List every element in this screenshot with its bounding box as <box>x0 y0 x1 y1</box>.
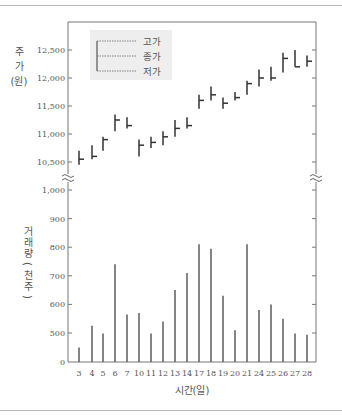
x-tick-label: 13 <box>170 369 180 378</box>
volume-tick-label: 500 <box>50 329 65 338</box>
axis-break-left <box>62 175 74 182</box>
x-tick-label: 26 <box>278 369 288 378</box>
volume-tick-label: 700 <box>50 272 65 281</box>
x-tick-label: 4 <box>89 369 94 378</box>
volume-tick-label: 600 <box>50 300 65 309</box>
volume-axis-title-char: 거 <box>24 226 33 237</box>
volume-tick-label: 800 <box>50 243 65 252</box>
x-tick-label: 18 <box>206 369 216 378</box>
x-tick-label: 3 <box>76 369 81 378</box>
price-tick-label: 11,000 <box>37 130 65 139</box>
price-tick-label: 11,500 <box>37 102 65 111</box>
volume-tick-label: 1,000 <box>42 186 65 195</box>
price-tick-label: 12,500 <box>37 46 65 55</box>
x-axis-title: 시간(일) <box>175 385 210 396</box>
x-tick-label: 14 <box>182 369 192 378</box>
x-tick-label: 11 <box>146 369 156 378</box>
legend-item-close: 종가 <box>143 51 161 62</box>
x-tick-label: 27 <box>290 369 300 378</box>
x-tick-label: 25 <box>266 369 276 378</box>
volume-axis-title-char: 래 <box>24 237 33 248</box>
volume-axis-title-char: ) <box>22 295 33 299</box>
x-tick-label: 19 <box>218 369 228 378</box>
price-axis-title-1: 주 <box>15 46 24 57</box>
x-tick-label: 6 <box>112 369 117 378</box>
volume-tick-label: 0 <box>60 358 65 367</box>
x-tick-label: 17 <box>194 369 204 378</box>
x-tick-label: 10 <box>134 369 144 378</box>
legend-item-high: 고가 <box>143 36 161 47</box>
x-tick-label: 5 <box>100 369 105 378</box>
volume-axis-title-char: 주 <box>24 281 33 292</box>
x-tick-label: 12 <box>158 369 168 378</box>
volume-axis-title-char: ( <box>22 262 33 266</box>
stock-price-volume-chart: 12,50012,00011,50011,00010,5001,00090080… <box>0 0 342 417</box>
price-tick-label: 12,000 <box>37 74 65 83</box>
price-tick-label: 10,500 <box>37 158 65 167</box>
axis-break-right <box>310 175 322 182</box>
price-axis-title-2: 가 <box>15 61 24 72</box>
price-axis-title-3: (원) <box>11 76 28 87</box>
x-tick-label: 21 <box>242 369 252 378</box>
volume-tick-label: 900 <box>50 215 65 224</box>
x-tick-label: 24 <box>254 369 264 378</box>
x-tick-label: 7 <box>124 369 129 378</box>
volume-axis-title-char: 량 <box>24 248 33 259</box>
x-tick-label: 28 <box>302 369 312 378</box>
legend-item-low: 저가 <box>143 66 161 77</box>
x-tick-label: 20 <box>230 369 240 378</box>
volume-axis-title-char: 천 <box>24 270 33 281</box>
